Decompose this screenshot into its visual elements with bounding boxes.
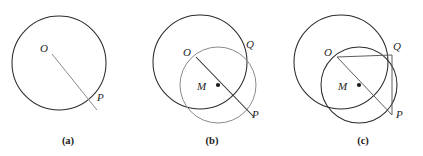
point-M-dot bbox=[357, 83, 361, 87]
label-Q: Q bbox=[246, 38, 254, 50]
panel-c: OQMP(c) bbox=[294, 15, 403, 147]
label-Q: Q bbox=[393, 40, 401, 52]
panel-caption-c: (c) bbox=[357, 135, 369, 147]
point-M-dot bbox=[216, 83, 220, 87]
panel-caption-a: (a) bbox=[62, 135, 75, 147]
label-O: O bbox=[324, 46, 332, 58]
circle-O bbox=[294, 15, 388, 109]
label-P: P bbox=[395, 108, 403, 120]
label-M: M bbox=[337, 80, 348, 92]
panel-caption-b: (b) bbox=[206, 135, 219, 147]
geometry-figure: OP(a)OQMP(b)OQMP(c) bbox=[0, 0, 423, 156]
label-P: P bbox=[96, 91, 104, 103]
segment-OP bbox=[52, 54, 97, 110]
panel-a: OP(a) bbox=[12, 16, 106, 147]
label-O: O bbox=[40, 42, 48, 54]
panel-b: OQMP(b) bbox=[153, 15, 259, 147]
figure-canvas: OP(a)OQMP(b)OQMP(c) bbox=[0, 0, 423, 156]
label-P: P bbox=[251, 108, 259, 120]
label-M: M bbox=[196, 80, 207, 92]
label-O: O bbox=[183, 46, 191, 58]
